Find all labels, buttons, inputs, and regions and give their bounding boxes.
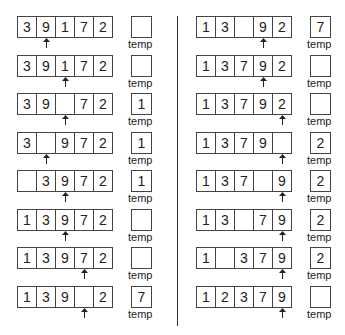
array-cell: [18, 171, 37, 191]
array-cell: 9: [273, 210, 291, 230]
array-cell: 1: [56, 56, 75, 76]
array-cell: 9: [56, 248, 75, 268]
sort-step: 13792temp: [196, 55, 345, 95]
temp-label: temp: [128, 308, 152, 320]
temp-label: temp: [307, 269, 331, 281]
array-cell: 9: [254, 94, 273, 114]
pointer-arrow-icon: [62, 77, 69, 87]
array-cell: 3: [216, 94, 235, 114]
array-cell: 3: [216, 17, 235, 37]
temp-box: 1: [131, 170, 152, 192]
temp-box: 2: [310, 170, 331, 192]
temp-box: 7: [310, 16, 331, 38]
sort-step: 13792temp: [196, 247, 345, 287]
array-cell: 3: [216, 56, 235, 76]
column-divider: [177, 16, 178, 326]
array-cell: 7: [75, 17, 94, 37]
sort-step: 12379temp: [196, 286, 345, 326]
array-cell: 7: [75, 94, 94, 114]
array: 13972: [17, 247, 113, 269]
array-cell: 3: [37, 171, 56, 191]
array-cell: [56, 94, 75, 114]
array-cell: 7: [75, 210, 94, 230]
array-cell: 1: [197, 248, 216, 268]
sort-step: 13927temp: [196, 16, 345, 56]
array-cell: 1: [197, 210, 216, 230]
array-cell: 3: [37, 210, 56, 230]
temp-box: 1: [131, 132, 152, 154]
temp-label: temp: [128, 38, 152, 50]
array-cell: 9: [37, 94, 56, 114]
array-cell: [216, 248, 235, 268]
array-cell: 9: [254, 56, 273, 76]
array-cell: 7: [75, 248, 94, 268]
sort-step: 13792temp: [196, 209, 345, 249]
array-cell: 1: [197, 287, 216, 307]
array-cell: 3: [18, 56, 37, 76]
array-cell: 7: [75, 56, 94, 76]
array-cell: 9: [273, 248, 291, 268]
array: 1379: [196, 247, 292, 269]
array-cell: 1: [18, 248, 37, 268]
temp-label: temp: [307, 154, 331, 166]
temp-label: temp: [307, 115, 331, 127]
array-cell: 3: [37, 248, 56, 268]
temp-label: temp: [307, 231, 331, 243]
array-cell: 3: [37, 287, 56, 307]
pointer-arrow-icon: [279, 154, 286, 164]
array: 3972: [17, 93, 113, 115]
array-cell: 7: [254, 210, 273, 230]
array-cell: 9: [273, 287, 291, 307]
temp-label: temp: [128, 115, 152, 127]
temp-box: 7: [131, 286, 152, 308]
sort-step: 39721temp: [17, 132, 177, 172]
pointer-arrow-icon: [279, 192, 286, 202]
array-cell: 2: [94, 287, 112, 307]
array-cell: 2: [94, 94, 112, 114]
temp-box: [131, 55, 152, 77]
pointer-arrow-icon: [260, 38, 267, 48]
array-cell: 1: [197, 133, 216, 153]
array-cell: 3: [235, 287, 254, 307]
array-cell: 2: [94, 133, 112, 153]
array: 1392: [196, 16, 292, 38]
array: 1379: [196, 209, 292, 231]
temp-box: [310, 55, 331, 77]
array: 13972: [17, 209, 113, 231]
array-cell: 9: [273, 171, 291, 191]
array-cell: 9: [254, 133, 273, 153]
array-cell: 3: [18, 133, 37, 153]
array-cell: 3: [216, 210, 235, 230]
array-cell: 7: [235, 133, 254, 153]
array-cell: 1: [18, 210, 37, 230]
pointer-arrow-icon: [43, 154, 50, 164]
sort-step: 13972temp: [17, 209, 177, 249]
array-cell: 9: [37, 56, 56, 76]
temp-label: temp: [307, 38, 331, 50]
sort-step: 13792temp: [196, 93, 345, 133]
array: 12379: [196, 286, 292, 308]
sort-step: 39721temp: [17, 93, 177, 133]
array-cell: 7: [235, 56, 254, 76]
array-cell: 2: [94, 17, 112, 37]
array: 13792: [196, 55, 292, 77]
array-cell: 9: [56, 133, 75, 153]
array-cell: 3: [18, 94, 37, 114]
array-cell: [75, 287, 94, 307]
temp-box: [131, 209, 152, 231]
temp-box: 2: [310, 209, 331, 231]
temp-label: temp: [128, 77, 152, 89]
array-cell: 3: [216, 171, 235, 191]
array-cell: 2: [94, 171, 112, 191]
array-cell: 7: [235, 171, 254, 191]
array-cell: 9: [37, 17, 56, 37]
array-cell: 1: [197, 56, 216, 76]
temp-label: temp: [128, 192, 152, 204]
array-cell: [235, 17, 254, 37]
temp-label: temp: [307, 192, 331, 204]
sort-step: 13972temp: [17, 247, 177, 287]
array-cell: 3: [216, 133, 235, 153]
sort-step: 13792temp: [196, 132, 345, 172]
temp-box: [131, 16, 152, 38]
array-cell: 7: [75, 133, 94, 153]
